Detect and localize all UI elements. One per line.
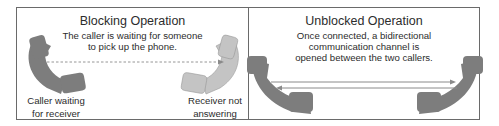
- receiver-label-line2: answering: [181, 107, 249, 120]
- left-handset-icon: [247, 56, 313, 114]
- caller-label: Caller waiting for receiver: [21, 94, 91, 120]
- dashed-arrow-icon: [47, 60, 224, 65]
- right-handset-icon: [417, 56, 483, 114]
- caller-label-line1: Caller waiting: [21, 94, 91, 107]
- bidirectional-arrows-icon: [271, 80, 457, 91]
- blocking-operation-panel: Blocking Operation The caller is waiting…: [16, 7, 249, 120]
- receiver-label: Receiver not answering: [181, 94, 249, 120]
- caller-handset-icon: [28, 34, 86, 94]
- receiver-label-line1: Receiver not: [181, 94, 249, 107]
- receiver-handset-icon: [181, 34, 239, 94]
- caller-label-line2: for receiver: [21, 107, 91, 120]
- unblocked-diagram: [249, 8, 481, 121]
- unblocked-operation-panel: Unblocked Operation Once connected, a bi…: [248, 7, 480, 120]
